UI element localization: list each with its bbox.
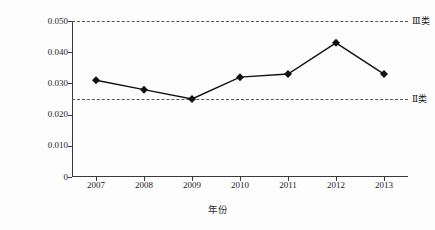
data-point-marker — [140, 86, 148, 94]
y-tick-label: 0.040 — [34, 48, 68, 57]
data-point-marker — [332, 39, 340, 47]
y-tick-label: 0 — [34, 173, 68, 182]
x-axis-tick-labels: 2007200820092010201120122013 — [72, 180, 408, 194]
y-tick-label: 0.010 — [34, 141, 68, 150]
x-tick-label: 2008 — [135, 180, 153, 190]
data-series — [72, 21, 408, 177]
y-tick-label: 0.020 — [34, 110, 68, 119]
chart-figure: 总磷浓度/（mg/L） 00.0100.0200.0300.0400.050 Ⅲ… — [0, 0, 435, 230]
series-line — [96, 43, 384, 99]
y-tick-mark — [68, 177, 72, 178]
reference-line-label: Ⅱ类 — [412, 94, 427, 104]
data-point-marker — [188, 95, 196, 103]
data-point-marker — [284, 70, 292, 78]
data-point-marker — [236, 73, 244, 81]
x-axis-title: 年份 — [0, 202, 435, 216]
x-tick-label: 2011 — [279, 180, 297, 190]
y-tick-label: 0.030 — [34, 79, 68, 88]
x-tick-label: 2013 — [375, 180, 393, 190]
reference-line-label: Ⅲ类 — [412, 16, 430, 26]
x-tick-label: 2007 — [87, 180, 105, 190]
x-tick-label: 2009 — [183, 180, 201, 190]
y-axis-tick-labels: 00.0100.0200.0300.0400.050 — [34, 0, 68, 230]
x-tick-label: 2010 — [231, 180, 249, 190]
plot-area — [72, 21, 408, 177]
x-tick-label: 2012 — [327, 180, 345, 190]
y-tick-label: 0.050 — [34, 17, 68, 26]
data-point-marker — [92, 76, 100, 84]
data-point-marker — [380, 70, 388, 78]
